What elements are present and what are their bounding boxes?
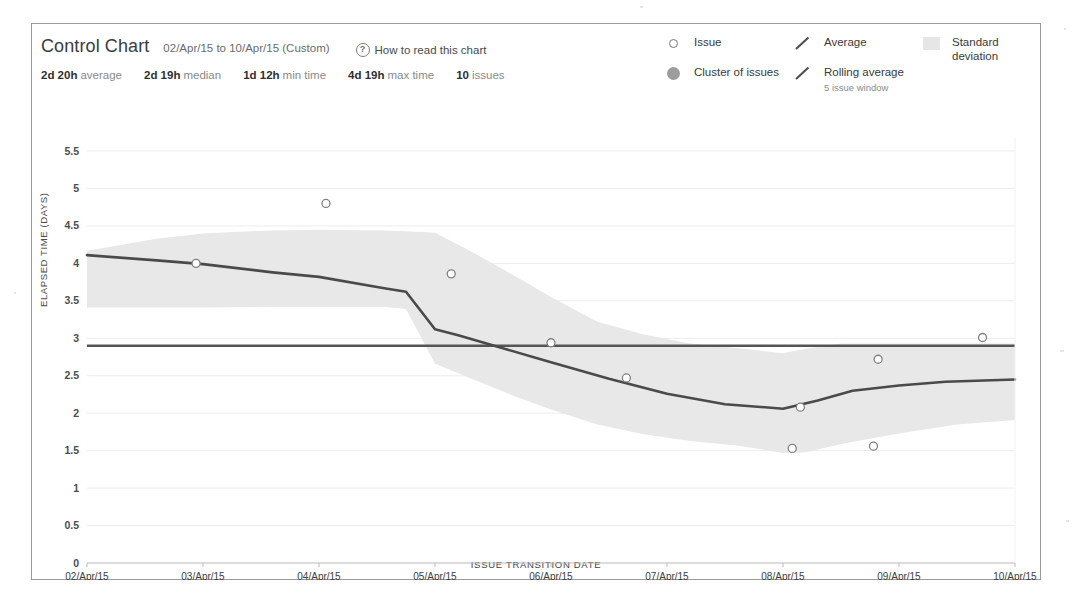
x-tick-label: 07/Apr/15 <box>645 571 689 580</box>
plot-area: ELAPSED TIME (DAYS) ISSUE TRANSITION DAT… <box>32 102 1040 579</box>
x-tick-label: 03/Apr/15 <box>181 571 225 580</box>
filled-circle-icon <box>662 66 684 80</box>
stat-issue-count: 10issues <box>456 69 504 81</box>
issue-marker[interactable] <box>874 355 882 363</box>
stat-max-time: 4d 19hmax time <box>348 69 434 81</box>
title-row: Control Chart 02/Apr/15 to 10/Apr/15 (Cu… <box>41 36 486 57</box>
stat-average-label: average <box>80 69 122 81</box>
y-tick-label: 1.5 <box>64 444 79 456</box>
legend-label-rolling-average: Rolling average <box>824 66 904 78</box>
slash-line-icon <box>792 36 814 50</box>
legend-item-average[interactable]: Average <box>792 35 904 65</box>
legend-column-lines: Average Rolling average 5 issue window <box>792 35 904 95</box>
x-tick-label: 06/Apr/15 <box>529 571 573 580</box>
stat-issue-count-label: issues <box>472 69 505 81</box>
question-circle-icon: ? <box>356 43 370 57</box>
issue-marker[interactable] <box>192 259 200 267</box>
x-tick-label: 10/Apr/15 <box>993 571 1037 580</box>
x-tick-label: 04/Apr/15 <box>297 571 341 580</box>
band-swatch-icon <box>920 36 942 50</box>
how-to-read-label: How to read this chart <box>375 44 487 56</box>
x-tick-label: 08/Apr/15 <box>761 571 805 580</box>
legend-item-standard-deviation[interactable]: Standard deviation <box>920 35 1040 65</box>
y-tick-label: 2.5 <box>64 369 79 381</box>
y-tick-label: 0 <box>73 557 79 569</box>
y-tick-label: 1 <box>73 482 79 494</box>
issue-marker[interactable] <box>979 334 987 342</box>
legend-column-markers: Issue Cluster of issues <box>662 35 779 95</box>
open-circle-icon <box>662 36 684 50</box>
legend-item-issue[interactable]: Issue <box>662 35 779 65</box>
legend-label-average: Average <box>824 35 867 49</box>
y-tick-label: 3.5 <box>64 294 79 306</box>
issue-marker[interactable] <box>622 374 630 382</box>
y-tick-label: 2 <box>73 407 79 419</box>
legend-column-band: Standard deviation <box>920 35 1040 65</box>
stat-min-time-value: 1d 12h <box>243 69 279 81</box>
stat-median-value: 2d 19h <box>144 69 180 81</box>
legend-sublabel-rolling-window: 5 issue window <box>824 82 904 93</box>
y-tick-label: 5.5 <box>64 145 79 157</box>
issue-marker[interactable] <box>447 270 455 278</box>
how-to-read-link[interactable]: ? How to read this chart <box>356 43 487 57</box>
stat-max-time-label: max time <box>387 69 434 81</box>
stat-max-time-value: 4d 19h <box>348 69 384 81</box>
stat-min-time-label: min time <box>283 69 326 81</box>
stat-median-label: median <box>183 69 221 81</box>
issue-marker[interactable] <box>796 403 804 411</box>
legend-item-rolling-average[interactable]: Rolling average 5 issue window <box>792 65 904 95</box>
x-tick-label: 02/Apr/15 <box>65 571 109 580</box>
y-tick-label: 4 <box>73 257 79 269</box>
chart-legend: Issue Cluster of issues Average Rolling … <box>632 35 1040 97</box>
issue-marker[interactable] <box>547 339 555 347</box>
control-chart-panel: Control Chart 02/Apr/15 to 10/Apr/15 (Cu… <box>31 23 1041 580</box>
y-tick-label: 4.5 <box>64 219 79 231</box>
stat-issue-count-value: 10 <box>456 69 469 81</box>
issue-marker[interactable] <box>322 199 330 207</box>
y-tick-label: 0.5 <box>64 519 79 531</box>
issue-marker[interactable] <box>788 444 796 452</box>
y-tick-label: 5 <box>73 182 79 194</box>
x-tick-label: 05/Apr/15 <box>413 571 457 580</box>
x-tick-label: 09/Apr/15 <box>877 571 921 580</box>
stat-min-time: 1d 12hmin time <box>243 69 326 81</box>
legend-item-cluster-of-issues[interactable]: Cluster of issues <box>662 65 779 95</box>
chart-svg[interactable]: 00.511.522.533.544.555.502/Apr/1503/Apr/… <box>32 102 1040 580</box>
page-title: Control Chart <box>41 36 149 57</box>
stat-average: 2d 20haverage <box>41 69 122 81</box>
summary-stats: 2d 20haverage 2d 19hmedian 1d 12hmin tim… <box>41 69 505 81</box>
slash-line-icon <box>792 66 814 80</box>
chart-header: Control Chart 02/Apr/15 to 10/Apr/15 (Cu… <box>32 24 1040 102</box>
issue-marker[interactable] <box>869 442 877 450</box>
y-tick-label: 3 <box>73 332 79 344</box>
stat-average-value: 2d 20h <box>41 69 77 81</box>
date-range-label[interactable]: 02/Apr/15 to 10/Apr/15 (Custom) <box>163 42 329 54</box>
stat-median: 2d 19hmedian <box>144 69 221 81</box>
legend-label-issue: Issue <box>694 35 722 49</box>
legend-label-cluster: Cluster of issues <box>694 65 779 79</box>
legend-label-standard-deviation: Standard deviation <box>952 35 1040 63</box>
